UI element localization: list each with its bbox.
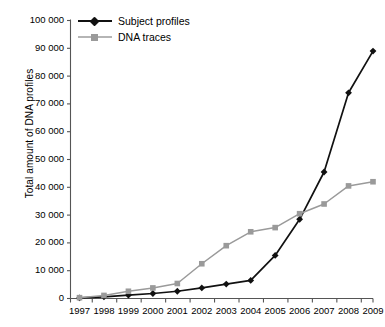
x-tick-label: 2006 (289, 306, 310, 316)
legend-label-subject-profiles: Subject profiles (118, 15, 190, 27)
x-tick-label: 1998 (93, 306, 114, 316)
legend-label-dna-traces: DNA traces (118, 31, 171, 43)
x-tick-label: 1999 (118, 306, 139, 316)
legend-item-dna-traces: DNA traces (78, 29, 190, 45)
legend-swatch-dna-traces (78, 31, 112, 43)
x-tick-label: 2008 (338, 306, 359, 316)
legend-swatch-subject-profiles (78, 15, 112, 27)
legend-item-subject-profiles: Subject profiles (78, 13, 190, 29)
dna-profiles-line-chart: Total amount of DNA profiles 010 00020 0… (0, 0, 385, 327)
diamond-marker-icon (90, 16, 100, 26)
x-tick-label: 2002 (191, 306, 212, 316)
x-tick-label: 2007 (314, 306, 335, 316)
x-tick-label: 2001 (167, 306, 188, 316)
x-tick-label: 2000 (142, 306, 163, 316)
plot-area (0, 0, 385, 327)
x-tick-label: 2003 (216, 306, 237, 316)
chart-legend: Subject profiles DNA traces (78, 13, 190, 45)
x-tick-label: 2005 (265, 306, 286, 316)
x-tick-label: 1997 (69, 306, 90, 316)
square-marker-icon (91, 34, 98, 41)
x-tick-label: 2009 (362, 306, 383, 316)
x-tick-label: 2004 (240, 306, 261, 316)
